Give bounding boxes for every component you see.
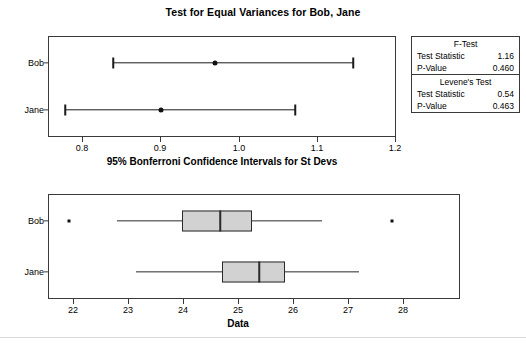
box-xtick-label-6: 28 xyxy=(383,305,423,315)
box-xtick-label-5: 27 xyxy=(328,305,368,315)
levene-section: Levene's Test Test Statistic 0.54 P-Valu… xyxy=(412,74,519,112)
ci-xtick-label-0: 0.8 xyxy=(62,143,102,153)
box-category-tick-jane xyxy=(44,271,49,272)
box-xtick-4 xyxy=(293,299,294,304)
box-category-label-bob: Bob xyxy=(0,216,44,226)
ci-point-estimate-jane xyxy=(159,108,164,113)
ci-upper-cap-bob xyxy=(352,58,354,69)
box-xtick-3 xyxy=(238,299,239,304)
boxplot-whisker-low-bob xyxy=(117,220,182,221)
ftest-section: F-Test Test Statistic 1.16 P-Value 0.460 xyxy=(412,37,519,74)
ci-xtick-2 xyxy=(239,137,240,142)
ci-xtick-3 xyxy=(317,137,318,142)
levene-statistic-value: 0.54 xyxy=(497,89,514,99)
box-xtick-0 xyxy=(73,299,74,304)
box-xtick-label-1: 23 xyxy=(108,305,148,315)
ftest-statistic-label: Test Statistic xyxy=(417,51,465,61)
boxplot-whisker-low-jane xyxy=(136,271,222,272)
box-xtick-label-4: 26 xyxy=(273,305,313,315)
ci-xtick-label-3: 1.1 xyxy=(297,143,337,153)
boxplot-outlier-bob-low xyxy=(68,220,71,223)
page-title: Test for Equal Variances for Bob, Jane xyxy=(0,6,526,18)
confidence-interval-plot xyxy=(48,36,396,137)
boxplot-median-bob xyxy=(219,211,221,232)
box-xtick-label-2: 24 xyxy=(163,305,203,315)
ci-xtick-label-2: 1.0 xyxy=(219,143,259,153)
box-xtick-1 xyxy=(128,299,129,304)
box-xtick-5 xyxy=(348,299,349,304)
boxplot-box-jane xyxy=(222,262,285,283)
box-xtick-2 xyxy=(183,299,184,304)
ftest-heading: F-Test xyxy=(412,37,519,50)
ci-category-label-jane: Jane xyxy=(0,105,44,115)
box-axis-caption: Data xyxy=(227,318,249,329)
boxplot-outlier-bob-high xyxy=(391,220,394,223)
ci-point-estimate-bob xyxy=(213,61,218,66)
boxplot-box-bob xyxy=(182,211,252,232)
equal-variances-figure: Test for Equal Variances for Bob, Jane B… xyxy=(0,0,526,344)
levene-statistic-label: Test Statistic xyxy=(417,89,465,99)
ci-lower-cap-jane xyxy=(64,105,66,116)
boxplot-whisker-high-jane xyxy=(285,271,359,272)
ci-upper-cap-jane xyxy=(294,105,296,116)
box-category-tick-bob xyxy=(44,220,49,221)
ftest-statistic-value: 1.16 xyxy=(497,51,514,61)
ci-category-tick-bob xyxy=(44,62,49,63)
ftest-pvalue-row: P-Value 0.460 xyxy=(412,62,519,74)
ci-category-tick-jane xyxy=(44,109,49,110)
ci-line-jane xyxy=(65,109,295,110)
levene-pvalue-row: P-Value 0.463 xyxy=(412,100,519,112)
boxplot-panel xyxy=(48,194,460,299)
levene-pvalue-value: 0.463 xyxy=(493,101,514,111)
ci-xtick-4 xyxy=(395,137,396,142)
levene-pvalue-label: P-Value xyxy=(417,101,447,111)
ci-xtick-label-1: 0.9 xyxy=(140,143,180,153)
box-xtick-6 xyxy=(403,299,404,304)
levene-heading: Levene's Test xyxy=(412,75,519,88)
boxplot-whisker-high-bob xyxy=(252,220,322,221)
footer-divider xyxy=(0,337,526,338)
levene-statistic-row: Test Statistic 0.54 xyxy=(412,88,519,100)
ci-axis-caption: 95% Bonferroni Confidence Intervals for … xyxy=(107,156,338,167)
ci-line-bob xyxy=(113,62,353,63)
ci-xtick-1 xyxy=(160,137,161,142)
ci-xtick-label-4: 1.2 xyxy=(375,143,415,153)
ftest-pvalue-label: P-Value xyxy=(417,63,447,73)
ftest-statistic-row: Test Statistic 1.16 xyxy=(412,50,519,62)
boxplot-median-jane xyxy=(258,262,260,283)
ftest-pvalue-value: 0.460 xyxy=(493,63,514,73)
box-xtick-label-0: 22 xyxy=(53,305,93,315)
ci-xtick-0 xyxy=(82,137,83,142)
box-xtick-label-3: 25 xyxy=(218,305,258,315)
statistics-table: F-Test Test Statistic 1.16 P-Value 0.460… xyxy=(411,36,520,113)
ci-lower-cap-bob xyxy=(112,58,114,69)
box-category-label-jane: Jane xyxy=(0,267,44,277)
ci-category-label-bob: Bob xyxy=(0,58,44,68)
